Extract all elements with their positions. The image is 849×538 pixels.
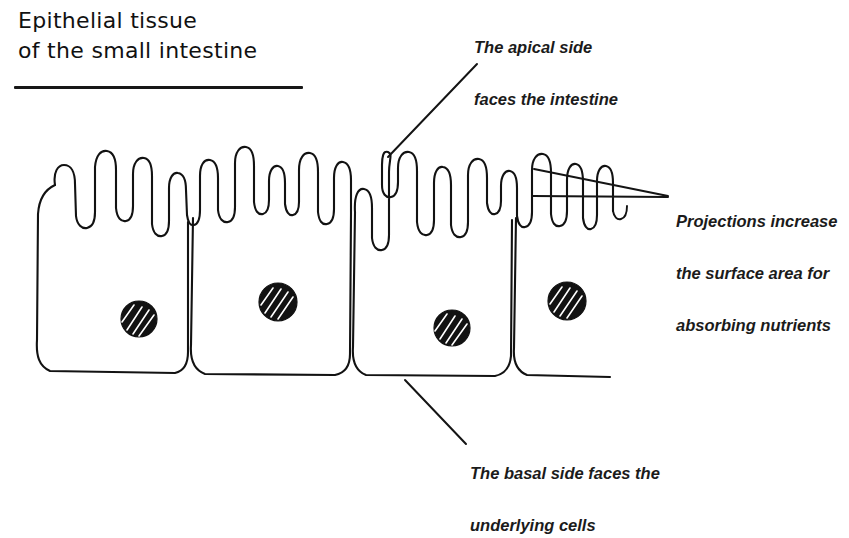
cell-4-microvilli-fade xyxy=(613,206,627,219)
annotation-basal-line-2: underlying cells xyxy=(470,512,720,538)
epithelial-cell-1 xyxy=(37,147,351,373)
cell-3-body-outline xyxy=(353,212,512,376)
nucleus-cell-3 xyxy=(434,310,470,346)
nucleus-cell-4 xyxy=(548,282,586,320)
leader-line-basal xyxy=(405,380,466,444)
leader-line-projections-upper xyxy=(534,169,668,196)
epithelial-cell-3 xyxy=(353,152,583,376)
cell-3-microvilli xyxy=(355,152,583,250)
leader-line-apical xyxy=(388,64,477,157)
cell-1-body-outline xyxy=(37,185,188,373)
cell-1-microvilli xyxy=(55,147,351,236)
nucleus-cell-1 xyxy=(121,301,157,337)
leader-line-projections-lower xyxy=(533,196,668,197)
nucleus-circle xyxy=(548,282,586,320)
nucleus-cell-2 xyxy=(259,283,297,321)
nucleus-circle xyxy=(259,283,297,321)
